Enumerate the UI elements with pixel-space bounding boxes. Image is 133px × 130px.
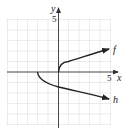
label-h: h [113, 94, 118, 105]
x-axis-label: x [116, 72, 122, 83]
graph: y 5 x 5 f h [0, 0, 133, 130]
axes [7, 8, 118, 128]
curve-f [59, 49, 110, 72]
y-tick-5: 5 [52, 14, 57, 24]
y-axis-label: y [50, 3, 56, 14]
x-tick-5: 5 [107, 73, 112, 83]
label-f: f [113, 44, 117, 55]
